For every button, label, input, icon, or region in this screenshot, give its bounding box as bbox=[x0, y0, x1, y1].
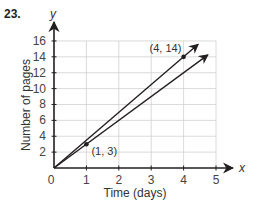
x-tick-label: 4 bbox=[180, 173, 187, 187]
point-label-1-3: (1, 3) bbox=[91, 145, 117, 157]
axes bbox=[54, 22, 233, 168]
y-tick-label: 14 bbox=[33, 50, 47, 64]
x-axis-title: Time (days) bbox=[104, 186, 167, 200]
y-tick-label: 10 bbox=[33, 82, 47, 96]
line-lower bbox=[54, 55, 208, 168]
y-tick-label: 16 bbox=[33, 34, 47, 48]
y-tick-label: 2 bbox=[39, 145, 46, 159]
line-chart: 012345246810121416 (4, 14)(1, 3) Time (d… bbox=[0, 0, 253, 209]
x-axis-letter: x bbox=[238, 161, 246, 175]
x-tick-label: 1 bbox=[83, 173, 90, 187]
point-1-3 bbox=[84, 142, 89, 147]
data-lines: (4, 14)(1, 3) bbox=[54, 42, 208, 168]
y-tick-label: 6 bbox=[39, 113, 46, 127]
x-tick-label: 5 bbox=[213, 173, 220, 187]
y-axis-title: Number of pages bbox=[19, 59, 33, 151]
x-tick-label: 3 bbox=[148, 173, 155, 187]
gridlines bbox=[54, 41, 216, 168]
x-tick-label: 0 bbox=[48, 173, 55, 187]
y-tick-label: 12 bbox=[33, 66, 47, 80]
x-tick-label: 2 bbox=[115, 173, 122, 187]
y-tick-label: 8 bbox=[39, 97, 46, 111]
line-upper bbox=[54, 44, 198, 168]
y-axis-letter: y bbox=[49, 7, 57, 21]
point-4-14 bbox=[181, 55, 186, 60]
axis-labels: Time (days)Number of pagesxy bbox=[19, 7, 246, 200]
y-tick-label: 4 bbox=[39, 129, 46, 143]
point-label-4-14: (4, 14) bbox=[150, 42, 182, 54]
